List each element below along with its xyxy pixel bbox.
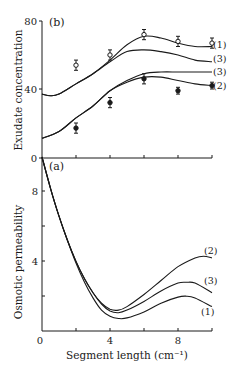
panel-a-curve-1 — [42, 157, 212, 313]
panel-b-curve-label-3a: (3) — [213, 53, 226, 64]
panel-b-curve-label-1: (1) — [213, 39, 226, 50]
panel-b-curve-label-3b: (3) — [213, 66, 226, 77]
panel-b-ytick-40: 40 — [24, 84, 37, 95]
filled-data-point — [74, 123, 78, 133]
panel-b-curve-0 — [42, 36, 212, 96]
panel-a-axes — [42, 158, 212, 331]
open-data-point — [142, 30, 146, 40]
panel-b-label: (b) — [49, 16, 65, 29]
panel-b-curve-3 — [42, 77, 212, 139]
panel-a-ytick-8: 8 — [32, 186, 38, 197]
panel-b-ytick-80: 80 — [24, 16, 37, 27]
open-data-point — [176, 36, 180, 46]
filled-data-point — [176, 87, 180, 94]
panel-b-ytick-0: 0 — [31, 153, 37, 164]
panel-a-curves — [42, 157, 212, 319]
x-tick-8: 8 — [175, 335, 181, 346]
x-axis-label: Segment length (cm⁻¹) — [66, 349, 188, 361]
panel-a-curve-label-2: (2) — [204, 245, 217, 256]
figure: 80 40 0 (b) Exudate concentration (1) (3… — [0, 0, 236, 368]
panel-b-axes — [39, 21, 212, 158]
panel-a-curve-label-1: (1) — [201, 306, 214, 317]
panel-a-ylabel: Osmotic permeability — [12, 205, 24, 319]
panel-b-ylabel: Exudate concentration — [12, 29, 24, 150]
panel-b-curves — [42, 36, 212, 138]
panel-a-curve-label-3: (3) — [204, 275, 217, 286]
panel-b-curve-label-2: (2) — [213, 80, 226, 91]
panel-b-curve-1 — [42, 50, 212, 96]
x-tick-0: 0 — [37, 335, 43, 346]
panel-a-ytick-4: 4 — [32, 256, 38, 267]
panel-a-label: (a) — [49, 160, 64, 173]
panel-b-data-points — [74, 30, 214, 134]
filled-data-point — [108, 98, 112, 108]
filled-data-point — [142, 74, 146, 84]
x-tick-4: 4 — [107, 335, 113, 346]
panel-a-curve-2 — [42, 157, 212, 319]
open-data-point — [74, 60, 78, 70]
panel-a-curve-0 — [42, 157, 212, 310]
